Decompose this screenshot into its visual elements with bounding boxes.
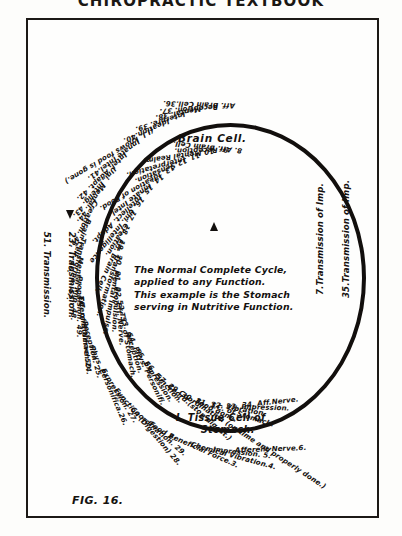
caption-line-4: serving in Nutritive Function. [134, 301, 349, 313]
running-head: CHIROPRACTIC TEXTBOOK [0, 0, 402, 6]
arrowhead-right-up [210, 222, 218, 231]
label-transmission-left-outer: 51. Transmission. [42, 232, 52, 318]
figure-border: Brain Cell. I. Tissue Cell of Stomach. T… [26, 18, 379, 518]
label-transmission-right-inner: 7.Transmission of Imp. [315, 183, 325, 295]
figure-number: FIG. 16. [72, 494, 123, 507]
figure-canvas: Brain Cell. I. Tissue Cell of Stomach. T… [28, 20, 377, 516]
figure-plate-stage: CHIROPRACTIC TEXTBOOK Brain Cell. I. Tis… [0, 0, 402, 536]
label-transmission-right-outer: 35.Transmission of Imp. [341, 180, 351, 298]
